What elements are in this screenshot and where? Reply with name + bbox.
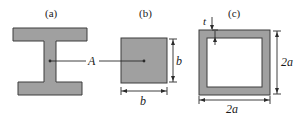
dimension-b-height bbox=[169, 39, 177, 82]
panel-c-hollow-tube bbox=[199, 30, 270, 95]
dimension-2a-width bbox=[199, 96, 270, 104]
dimension-b-width bbox=[121, 87, 167, 95]
cross-section-figure: (a) (b) (c) A b b t 2a 2a bbox=[0, 0, 301, 119]
dimension-2a-height bbox=[273, 31, 281, 94]
figure-canvas bbox=[0, 0, 301, 119]
tube-inner-hole bbox=[207, 38, 262, 87]
